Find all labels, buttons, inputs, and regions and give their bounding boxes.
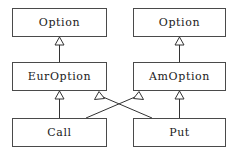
class-label: Call — [47, 127, 71, 138]
class-box-call[interactable]: Call — [12, 118, 107, 147]
arrowhead-call-to-am — [134, 92, 144, 100]
arrowhead-put-to-am — [175, 91, 184, 99]
arrowhead-put-to-eur — [95, 92, 105, 100]
class-label: Put — [169, 127, 190, 138]
class-box-am-option[interactable]: AmOption — [133, 62, 226, 91]
class-label: Option — [39, 17, 80, 28]
class-label: Option — [159, 17, 200, 28]
class-label: AmOption — [149, 71, 210, 82]
arrowhead-am-to-option — [175, 37, 184, 45]
arrowhead-call-to-eur — [55, 91, 64, 99]
class-box-eur-option[interactable]: EurOption — [12, 62, 107, 91]
class-box-option-left[interactable]: Option — [12, 8, 107, 37]
uml-class-diagram: Option Option EurOption AmOption Call Pu… — [0, 0, 236, 155]
arrowhead-eur-to-option — [55, 37, 64, 45]
class-label: EurOption — [28, 71, 91, 82]
class-box-put[interactable]: Put — [133, 118, 226, 147]
class-box-option-right[interactable]: Option — [133, 8, 226, 37]
